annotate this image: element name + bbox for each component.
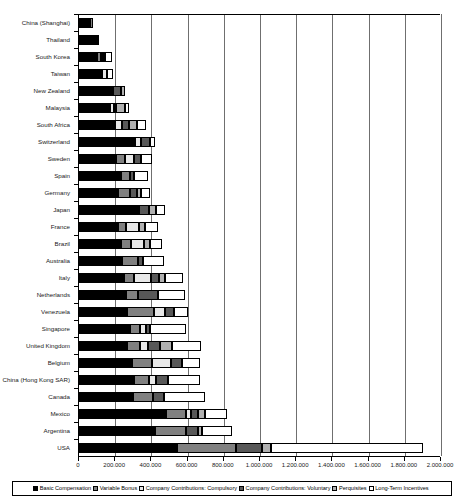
- bar-segment: [125, 103, 129, 113]
- bar-segment: [127, 341, 140, 351]
- bar-segment: [182, 358, 199, 368]
- y-axis-tick: [74, 184, 78, 185]
- bar-segment: [177, 443, 237, 453]
- y-axis-label: China (Shanghai): [22, 19, 70, 26]
- bar-segment: [166, 409, 186, 419]
- legend-swatch-icon: [93, 486, 98, 491]
- bar-row: [79, 35, 99, 45]
- bar-segment: [138, 290, 158, 300]
- bar-row: [79, 86, 125, 96]
- x-axis-tick: [295, 457, 296, 461]
- bar-segment: [141, 154, 153, 164]
- bar-row: [79, 69, 113, 79]
- x-axis-tick: [187, 457, 188, 461]
- x-axis-tick: [223, 457, 224, 461]
- bar-segment: [79, 324, 130, 334]
- y-axis-tick: [74, 82, 78, 83]
- y-axis-tick: [74, 388, 78, 389]
- bar-segment: [121, 239, 132, 249]
- bar-segment: [143, 256, 164, 266]
- bar-segment: [191, 409, 198, 419]
- y-axis-tick: [74, 31, 78, 32]
- y-axis-label: France: [51, 223, 70, 230]
- y-axis-label: Spain: [54, 172, 70, 179]
- legend-item[interactable]: Basic Compensation: [33, 485, 93, 492]
- y-axis-tick: [74, 286, 78, 287]
- y-axis-tick: [74, 99, 78, 100]
- y-axis-tick: [74, 14, 78, 15]
- bar-segment: [160, 341, 172, 351]
- bar-segment: [139, 205, 148, 215]
- bar-row: [79, 239, 162, 249]
- bar-segment: [156, 375, 168, 385]
- x-axis-tick: [78, 457, 79, 461]
- x-axis-ticks: 0200.000400.000600.000800.0001.000.0001.…: [0, 457, 465, 473]
- y-axis-tick: [74, 133, 78, 134]
- x-axis-tick: [440, 457, 441, 461]
- bar-segment: [131, 239, 143, 249]
- bar-segment: [79, 222, 118, 232]
- bar-segment: [90, 18, 93, 28]
- legend-item[interactable]: Perquisites: [332, 485, 368, 492]
- bar-segment: [79, 120, 115, 130]
- y-axis-tick: [74, 116, 78, 117]
- y-axis-label: Taiwan: [51, 70, 70, 77]
- bar-segment: [153, 392, 163, 402]
- bar-segment: [141, 137, 150, 147]
- y-axis-tick: [74, 201, 78, 202]
- bar-segment: [122, 256, 138, 266]
- bar-segment: [149, 205, 156, 215]
- y-axis-labels: China (Shanghai)ThailandSouth KoreaTaiwa…: [0, 0, 76, 456]
- y-axis-label: South Korea: [36, 53, 70, 60]
- bar-segment: [79, 256, 122, 266]
- bar-segment: [137, 120, 147, 130]
- bar-segment: [132, 358, 152, 368]
- bar-segment: [145, 222, 158, 232]
- chart-container: China (Shanghai)ThailandSouth KoreaTaiwa…: [0, 0, 465, 504]
- y-axis-tick: [74, 235, 78, 236]
- y-axis-label: Sweden: [48, 155, 70, 162]
- y-axis-tick: [74, 269, 78, 270]
- x-axis-tick-label: 600.000: [176, 462, 198, 469]
- bar-segment: [155, 426, 186, 436]
- y-axis-label: Belgium: [48, 359, 70, 366]
- legend-item[interactable]: Variable Bonus: [93, 485, 139, 492]
- y-axis-label: South Africa: [37, 121, 70, 128]
- y-axis-label: Singapore: [42, 325, 70, 332]
- x-axis-tick: [150, 457, 151, 461]
- legend-item[interactable]: Company Contributions: Compulsory: [139, 485, 239, 492]
- legend-swatch-icon: [33, 486, 38, 491]
- legend-item[interactable]: Long-Term Incentives: [369, 485, 431, 492]
- bar-row: [79, 290, 185, 300]
- y-axis-label: Argentina: [44, 427, 71, 434]
- bar-segment: [262, 443, 271, 453]
- bar-segment: [134, 273, 151, 283]
- y-axis-label: Venezuela: [41, 308, 70, 315]
- plot-area: [78, 14, 441, 456]
- bar-segment: [79, 426, 155, 436]
- bar-segment: [130, 188, 137, 198]
- bar-segment: [154, 307, 165, 317]
- bar-row: [79, 375, 200, 385]
- bar-segment: [97, 35, 100, 45]
- bar-segment: [79, 35, 95, 45]
- bar-segment: [79, 188, 118, 198]
- y-axis-tick: [74, 405, 78, 406]
- y-axis-label: New Zealand: [34, 87, 70, 94]
- bar-segment: [79, 69, 102, 79]
- bar-rows: [79, 14, 441, 456]
- bar-row: [79, 137, 155, 147]
- bar-row: [79, 171, 148, 181]
- bar-segment: [121, 86, 124, 96]
- y-axis-tick: [74, 337, 78, 338]
- bar-segment: [79, 86, 113, 96]
- y-axis-label: Netherlands: [37, 291, 70, 298]
- bar-segment: [127, 307, 153, 317]
- y-axis-label: USA: [57, 444, 70, 451]
- bar-row: [79, 392, 205, 402]
- bar-segment: [165, 307, 174, 317]
- bar-segment: [105, 52, 112, 62]
- bar-segment: [164, 392, 205, 402]
- bar-segment: [79, 137, 135, 147]
- legend-item[interactable]: Company Contributions: Voluntary: [239, 485, 332, 492]
